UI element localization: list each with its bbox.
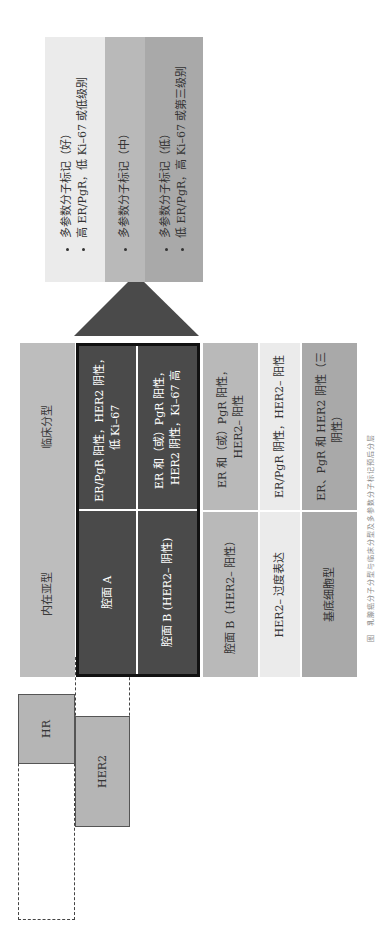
header-clinical: 临床分型 xyxy=(20,343,75,510)
row-basal-intrinsic: 基底细胞型 xyxy=(302,512,357,677)
row-her2-clinical: ER/PgR 阴性，HER2– 阳性 xyxy=(260,343,300,510)
outcome-poor-line-2: 低 ER/PgR，高 Ki–67 或第三级别 xyxy=(174,37,191,238)
her2-bar-label: HER2 xyxy=(96,755,109,788)
row-luminal-a-intrinsic: 腔面 A xyxy=(79,511,136,674)
outcome-intermediate: 多参数分子标记（中） xyxy=(105,37,145,282)
hr-bar: HR xyxy=(18,694,75,764)
outcome-good-line-1: 多参数分子标记（好） xyxy=(59,37,76,238)
row-luminal-b-pos-clinical: ER 和（或）PgR 阳性，HER2– 阳性 xyxy=(203,343,258,510)
outcome-poor: 多参数分子标记（低） 低 ER/PgR，高 Ki–67 或第三级别 xyxy=(145,37,203,282)
row-luminal-b-pos-intrinsic: 腔面 B（HER2– 阳性） xyxy=(203,512,258,677)
her2-bar: HER2 xyxy=(75,716,130,827)
outcome-intermediate-line-1: 多参数分子标记（中） xyxy=(117,37,134,238)
arrow-head-icon xyxy=(74,274,199,336)
outcome-good-line-2: 高 ER/PgR，低 Ki–67 或低级别 xyxy=(75,37,92,238)
header-intrinsic: 内在亚型 xyxy=(20,510,75,677)
row-luminal-a-clinical: ER/PgR 阳性，HER2 阴性，低 Ki–67 xyxy=(79,346,136,509)
outcome-good: 多参数分子标记（好） 高 ER/PgR，低 Ki–67 或低级别 xyxy=(45,37,105,282)
figure-caption: 图 乳腺癌分子分型与临床分型及多参数分子标记预后分层 xyxy=(365,434,375,642)
hr-bar-label: HR xyxy=(40,720,53,738)
outcome-poor-line-1: 多参数分子标记（低） xyxy=(158,37,175,238)
row-basal-clinical: ER、PgR 和 HER2 阴性（三阴性） xyxy=(302,343,357,510)
row-luminal-b-neg-clinical: ER 和（或）PgR 阳性，HER2 阴性，Ki–67 高 xyxy=(138,346,197,509)
row-luminal-b-neg-intrinsic: 腔面 B (HER2– 阴性) xyxy=(138,511,197,674)
rotated-figure: HER2 HR 内在亚型 临床分型 腔面 A ER/PgR 阳性，HER2 阴性… xyxy=(0,0,380,932)
row-her2-intrinsic: HER2– 过度表达 xyxy=(260,512,300,677)
